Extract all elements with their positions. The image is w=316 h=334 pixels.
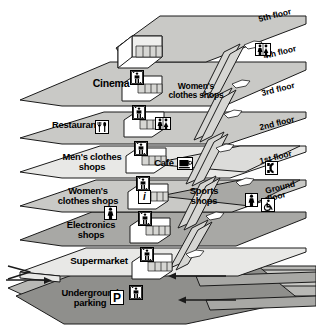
telephone-icon [265,161,278,175]
cafe-icon [177,157,193,170]
mall-floor-diagram: 5th floor 4th floor 3rd floor 2nd floor … [0,0,316,334]
elevator-icon [129,285,143,300]
information-icon: i [138,190,151,204]
elevator-icon [132,105,146,120]
restaurant-cutlery-icon [95,120,109,134]
parking-sign-icon: P [110,290,124,305]
restrooms-icon [245,193,258,207]
zone-label-sports: Sports shops [174,186,234,205]
parking-sign-glyph: P [113,292,121,304]
elevator-icon [140,247,154,262]
restrooms-icon [255,43,271,56]
elevator-icon [138,211,152,226]
zone-label-womens-lower: Women's clothes shops [44,186,132,205]
elevator-icon [136,176,150,191]
zone-label-supermarket: Supermarket [50,256,148,266]
zone-label-womens-upper: Women's clothes shops [158,82,234,100]
zone-label-cafe: Café [148,158,180,168]
elevator-icon [130,70,144,85]
information-icon-glyph: i [143,192,146,202]
wheelchair-access-icon [261,198,275,212]
restrooms-icon [155,117,171,130]
zone-label-electronics: Electronics shops [48,220,134,239]
restrooms-icon [104,206,117,220]
zone-label-mens: Men's clothes shops [50,152,134,171]
elevator-icon [134,141,148,156]
